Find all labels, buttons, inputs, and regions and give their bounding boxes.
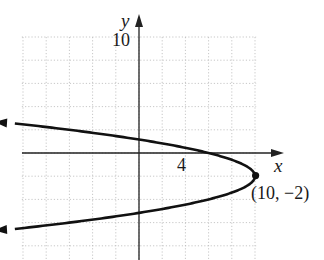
parabola-graph: [0, 0, 324, 260]
y-axis-label: y: [121, 11, 129, 30]
y-axis: [135, 14, 143, 260]
x-axis: [22, 149, 284, 157]
y-tick-label-10: 10: [112, 31, 130, 49]
x-tick-label-4: 4: [177, 156, 186, 174]
vertex-label: (10, −2): [251, 184, 309, 202]
curve-arrow-lower-icon: [0, 225, 7, 234]
curve-arrow-upper-icon: [0, 118, 7, 127]
vertex-point: [252, 172, 259, 179]
y-axis-arrow-icon: [135, 14, 143, 27]
x-axis-label: x: [274, 156, 282, 175]
